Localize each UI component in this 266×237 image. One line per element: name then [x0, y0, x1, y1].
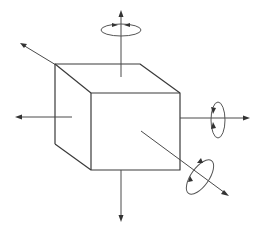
arrowhead-icon: [119, 215, 124, 222]
axis-down: [119, 170, 124, 222]
axis-right: [180, 102, 250, 138]
cube: [55, 64, 180, 170]
arrowhead-icon: [15, 115, 22, 120]
six-dof-cube-diagram: [0, 0, 266, 237]
rotation-arrow-icon: [211, 102, 225, 138]
arrowhead-icon: [119, 10, 124, 17]
axis-back-left: [20, 43, 56, 65]
arrowhead-icon: [243, 116, 250, 121]
